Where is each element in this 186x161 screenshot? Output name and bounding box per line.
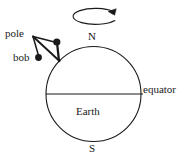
label-equator: equator: [143, 84, 176, 95]
pendulum-bob-dot-icon: [53, 38, 60, 45]
label-pole: pole: [5, 28, 24, 39]
rotation-arrow-arc: [73, 8, 115, 24]
diagram-canvas: [0, 0, 186, 161]
label-south-pole: S: [89, 143, 95, 154]
rotation-arrow-icon: [73, 8, 116, 24]
earth-pendulum-diagram: pole bob N S equator Earth: [0, 0, 186, 161]
bob-marker-dot-icon: [35, 54, 42, 61]
label-north-pole: N: [88, 31, 96, 42]
label-earth: Earth: [76, 106, 100, 117]
label-bob: bob: [13, 52, 30, 63]
